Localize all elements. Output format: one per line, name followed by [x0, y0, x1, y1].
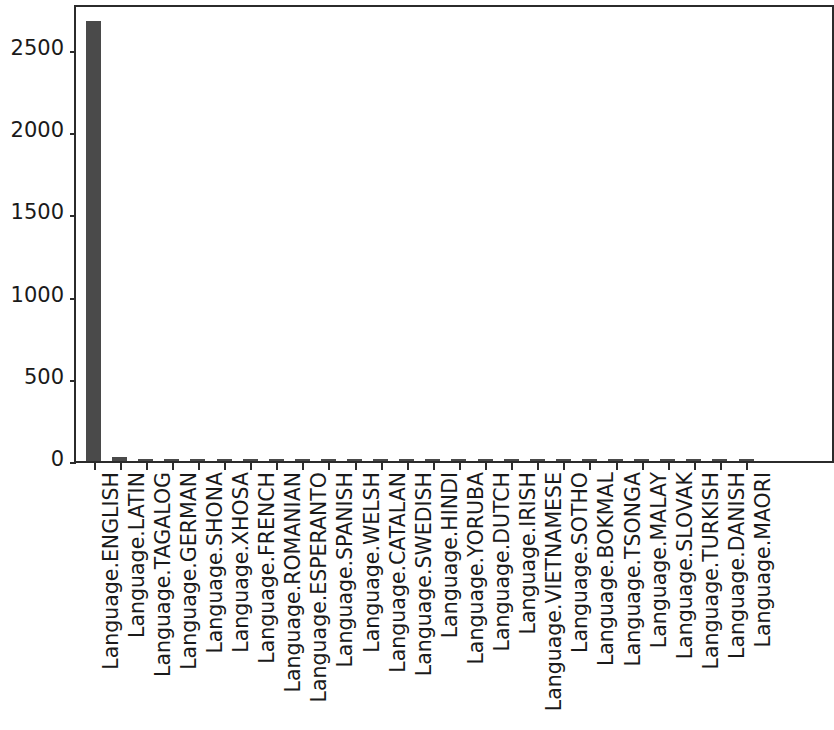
x-axis-tick-label: Language.TSONGA: [623, 472, 644, 667]
x-axis-tick: [355, 463, 357, 470]
x-axis-tick: [328, 463, 330, 470]
x-axis-tick-label: Language.HINDI: [440, 472, 461, 638]
x-axis-tick: [94, 463, 96, 470]
x-axis-tick-label: Language.GERMAN: [179, 472, 200, 670]
bar: [478, 459, 493, 461]
x-axis-labels: Language.ENGLISHLanguage.LATINLanguage.T…: [74, 472, 834, 730]
x-axis-tick: [250, 463, 252, 470]
bar: [295, 459, 310, 461]
x-axis-tick-label: Language.IRISH: [518, 472, 539, 634]
x-axis-tick-label: Language.SPANISH: [335, 472, 356, 668]
x-axis-tick-label: Language.XHOSA: [231, 472, 252, 653]
x-axis-tick: [668, 463, 670, 470]
x-axis-tick: [433, 463, 435, 470]
x-axis-tick-label: Language.YORUBA: [466, 472, 487, 665]
y-axis-tick-label: 500: [0, 365, 64, 389]
x-axis-tick-label: Language.LATIN: [127, 472, 148, 638]
bar: [269, 459, 284, 461]
bar: [634, 459, 649, 461]
bar: [712, 459, 727, 461]
x-axis-tick-label: Language.WELSH: [362, 472, 383, 653]
x-axis-tick-label: Language.SWEDISH: [414, 472, 435, 676]
x-axis-tick: [120, 463, 122, 470]
bar: [451, 459, 466, 461]
bar: [217, 459, 232, 461]
x-axis-tick: [224, 463, 226, 470]
y-axis-tick-label: 0: [0, 447, 64, 471]
x-axis-tick: [720, 463, 722, 470]
bar: [686, 459, 701, 461]
x-axis-tick-label: Language.SLOVAK: [675, 472, 696, 659]
y-axis-tick: [70, 298, 76, 300]
x-axis-tick: [563, 463, 565, 470]
y-axis-tick: [70, 380, 76, 382]
x-axis-tick: [146, 463, 148, 470]
x-axis-tick: [694, 463, 696, 470]
x-axis-tick-label: Language.VIETNAMESE: [544, 472, 565, 711]
bar: [164, 459, 179, 461]
x-axis-tick-label: Language.TAGALOG: [153, 472, 174, 677]
bar: [556, 459, 571, 461]
x-axis-tick: [407, 463, 409, 470]
x-axis-tick-label: Language.MALAY: [649, 472, 670, 648]
x-axis-tick-label: Language.CATALAN: [388, 472, 409, 673]
x-axis-tick: [616, 463, 618, 470]
bar: [347, 459, 362, 461]
bar: [582, 459, 597, 461]
bar: [112, 457, 127, 461]
bar: [504, 459, 519, 461]
x-axis-tick: [589, 463, 591, 470]
bar: [373, 459, 388, 461]
y-axis-tick-label: 1500: [0, 200, 64, 224]
x-axis-tick: [198, 463, 200, 470]
x-axis-tick-label: Language.BOKMAL: [596, 472, 617, 666]
plot-area: [76, 7, 832, 461]
x-axis-tick-label: Language.ENGLISH: [101, 472, 122, 670]
x-axis-tick: [642, 463, 644, 470]
x-axis-tick-label: Language.FRENCH: [257, 472, 278, 664]
bar: [530, 459, 545, 461]
x-axis-tick: [511, 463, 513, 470]
bar: [86, 21, 101, 461]
y-axis-tick-label: 2000: [0, 118, 64, 142]
y-axis-tick: [70, 133, 76, 135]
bar: [190, 459, 205, 461]
bar: [660, 459, 675, 461]
bar: [608, 459, 623, 461]
x-axis-tick-label: Language.MAORI: [753, 472, 774, 647]
bar: [399, 459, 414, 461]
x-axis-tick-label: Language.DANISH: [727, 472, 748, 659]
x-axis-tick-label: Language.DUTCH: [492, 472, 513, 652]
x-axis-tick: [459, 463, 461, 470]
x-axis-tick-label: Language.SOTHO: [570, 472, 591, 653]
bar: [243, 459, 258, 461]
chart-axes: [74, 5, 834, 463]
x-axis-tick: [381, 463, 383, 470]
bar: [425, 459, 440, 461]
y-axis-tick-label: 2500: [0, 36, 64, 60]
y-axis-tick-label: 1000: [0, 283, 64, 307]
x-axis-tick: [537, 463, 539, 470]
x-axis-tick-label: Language.TURKISH: [701, 472, 722, 669]
x-axis-tick-label: Language.ROMANIAN: [283, 472, 304, 693]
x-axis-tick: [485, 463, 487, 470]
bar: [739, 459, 754, 461]
y-axis-tick: [70, 215, 76, 217]
x-axis-tick-label: Language.ESPERANTO: [309, 472, 330, 702]
y-axis-tick: [70, 51, 76, 53]
x-axis-tick: [302, 463, 304, 470]
x-axis-tick: [746, 463, 748, 470]
bar: [138, 459, 153, 461]
bar: [321, 459, 336, 461]
x-axis-tick: [276, 463, 278, 470]
x-axis-tick-label: Language.SHONA: [205, 472, 226, 654]
x-axis-tick: [172, 463, 174, 470]
